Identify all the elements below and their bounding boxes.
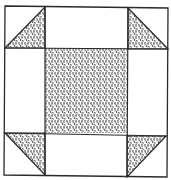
triangle-bottom-right xyxy=(127,136,166,177)
triangle-top-right xyxy=(128,8,168,49)
quilt-block-diagram xyxy=(0,0,171,180)
center-square xyxy=(45,48,127,133)
triangle-top-left xyxy=(5,7,45,48)
triangle-bottom-left xyxy=(5,133,45,175)
